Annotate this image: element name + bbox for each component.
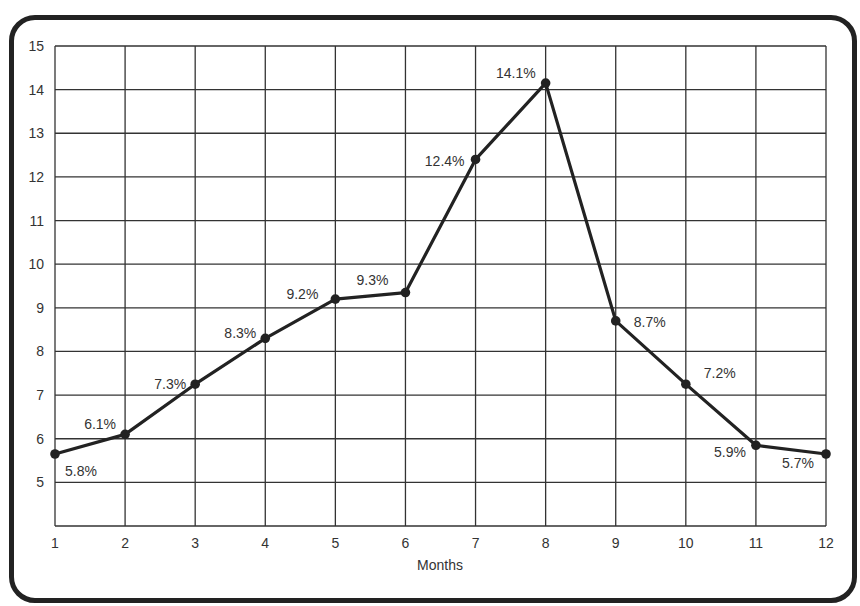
x-tick-label: 3 <box>191 535 199 551</box>
data-point <box>681 379 691 389</box>
data-label: 9.3% <box>357 272 389 288</box>
data-points <box>50 78 831 459</box>
data-point <box>190 379 200 389</box>
x-tick-label: 5 <box>331 535 339 551</box>
line-chart: 56789101112131415 123456789101112 5.8%6.… <box>0 0 860 606</box>
data-label: 5.8% <box>65 463 97 479</box>
data-point <box>821 449 831 459</box>
x-tick-label: 9 <box>612 535 620 551</box>
y-tick-label: 11 <box>29 213 44 229</box>
x-tick-label: 7 <box>472 535 480 551</box>
x-axis-ticks: 123456789101112 <box>51 535 834 551</box>
data-label: 7.2% <box>704 365 736 381</box>
x-tick-label: 6 <box>402 535 410 551</box>
y-tick-label: 10 <box>28 256 44 272</box>
data-point <box>751 440 761 450</box>
y-tick-label: 9 <box>36 300 44 316</box>
data-label: 9.2% <box>286 286 318 302</box>
data-point <box>50 449 60 459</box>
data-label: 6.1% <box>84 416 116 432</box>
data-point <box>331 294 341 304</box>
x-tick-label: 2 <box>121 535 129 551</box>
grid <box>55 46 826 526</box>
data-point <box>611 316 621 326</box>
x-tick-label: 4 <box>261 535 269 551</box>
data-point <box>260 334 270 344</box>
y-tick-label: 15 <box>28 38 44 54</box>
series-line <box>55 83 826 454</box>
data-point <box>541 78 551 88</box>
y-tick-label: 12 <box>28 169 44 185</box>
x-tick-label: 8 <box>542 535 550 551</box>
data-point <box>401 288 411 298</box>
data-label: 5.7% <box>782 455 814 471</box>
y-tick-label: 8 <box>36 343 44 359</box>
data-point <box>471 155 481 165</box>
y-tick-label: 14 <box>28 82 44 98</box>
y-tick-label: 7 <box>36 387 44 403</box>
x-tick-label: 12 <box>818 535 834 551</box>
x-tick-label: 11 <box>749 535 764 551</box>
y-tick-label: 5 <box>36 474 44 490</box>
data-labels: 5.8%6.1%7.3%8.3%9.2%9.3%12.4%14.1%8.7%7.… <box>65 65 814 479</box>
x-tick-label: 1 <box>51 535 59 551</box>
y-tick-label: 13 <box>28 125 44 141</box>
data-label: 5.9% <box>714 444 746 460</box>
data-label: 8.7% <box>634 314 666 330</box>
x-axis-label: Months <box>417 557 463 573</box>
data-label: 12.4% <box>425 153 465 169</box>
series-line-path <box>55 83 826 454</box>
data-label: 14.1% <box>496 65 536 81</box>
data-label: 8.3% <box>224 325 256 341</box>
data-label: 7.3% <box>154 376 186 392</box>
data-point <box>120 430 130 440</box>
y-tick-label: 6 <box>36 431 44 447</box>
x-tick-label: 10 <box>678 535 694 551</box>
y-axis-ticks: 56789101112131415 <box>28 38 44 490</box>
